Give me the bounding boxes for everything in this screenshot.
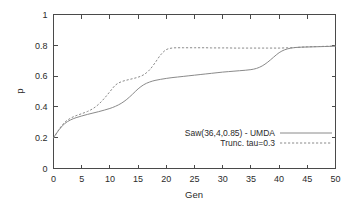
x-tick-label-40: 40 (274, 174, 284, 184)
y-tick-label-0.4: 0.4 (35, 102, 48, 112)
y-tick-label-0.2: 0.2 (35, 133, 48, 143)
x-tick-label-0: 0 (51, 174, 56, 184)
x-tick-label-5: 5 (79, 174, 84, 184)
x-tick-label-25: 25 (189, 174, 199, 184)
legend-label-saw-umda: Saw(36,4,0.85) - UMDA (185, 128, 276, 138)
legend-label-trunc-tau: Trunc. tau=0.3 (220, 138, 275, 148)
x-tick-label-10: 10 (105, 174, 115, 184)
x-tick-label-15: 15 (133, 174, 143, 184)
x-tick-label-45: 45 (302, 174, 312, 184)
y-tick-label-1: 1 (42, 10, 47, 20)
x-tick-label-35: 35 (246, 174, 256, 184)
y-tick-label-0.6: 0.6 (35, 71, 48, 81)
y-tick-label-0.8: 0.8 (35, 41, 48, 51)
y-axis-title: p (14, 88, 25, 93)
line-chart: 05101520253035404550 00.20.40.60.81 Gen … (0, 0, 358, 204)
x-tick-label-30: 30 (218, 174, 228, 184)
x-tick-label-20: 20 (161, 174, 171, 184)
x-tick-label-50: 50 (330, 174, 340, 184)
y-tick-label-0: 0 (42, 164, 47, 174)
x-axis-title: Gen (185, 189, 203, 200)
